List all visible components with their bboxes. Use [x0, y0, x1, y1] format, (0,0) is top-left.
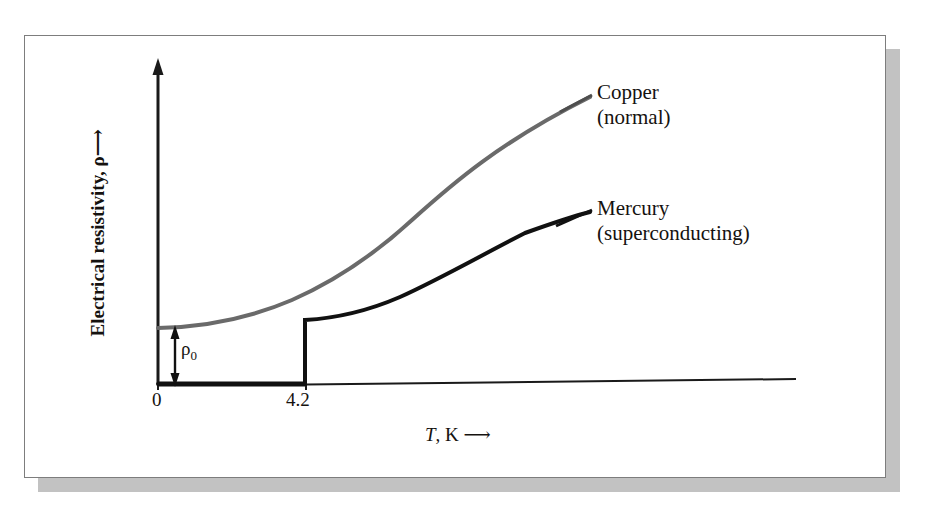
series-label-copper-state: (normal) [597, 105, 670, 130]
series-label-copper-name: Copper [597, 80, 670, 105]
series-label-copper: Copper (normal) [597, 80, 670, 130]
x-axis-title-arrow-icon: ⟶ [464, 424, 490, 445]
rho-zero-subscript: 0 [190, 348, 197, 363]
series-label-mercury-state: (superconducting) [597, 221, 750, 246]
y-axis-title: Electrical resistivity, ρ⟶ [87, 83, 109, 383]
figure-root: Copper (normal) Mercury (superconducting… [0, 0, 938, 525]
series-label-mercury-name: Mercury [597, 196, 750, 221]
y-axis-title-arrow-icon: ⟶ [87, 130, 108, 156]
x-tick-label-critical-temperature: 4.2 [286, 389, 310, 411]
x-axis-title-symbol: T [425, 424, 436, 445]
x-axis-title: T, K ⟶ [425, 424, 490, 446]
series-label-mercury: Mercury (superconducting) [597, 196, 750, 246]
x-tick-label-0: 0 [152, 389, 162, 411]
x-axis-title-unit: , K [436, 424, 459, 445]
figure-panel [24, 35, 886, 478]
rho-zero-label: ρ0 [181, 338, 197, 363]
y-axis-title-text: Electrical resistivity, ρ [87, 156, 108, 336]
